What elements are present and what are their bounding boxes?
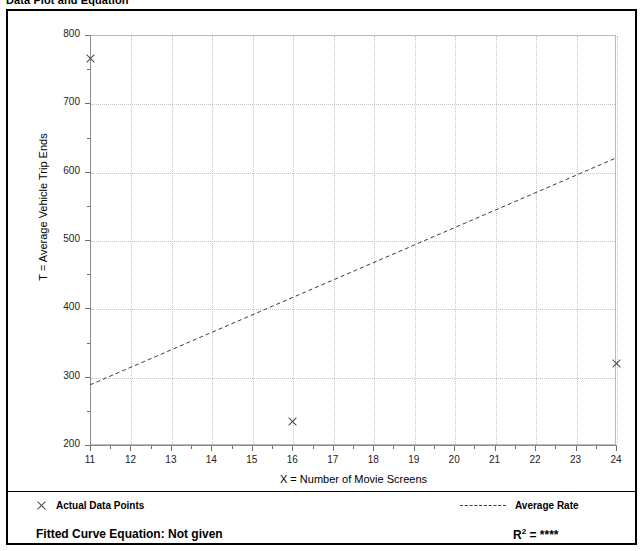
x-axis-tick-label: 20 (434, 454, 474, 465)
x-axis-tick (576, 446, 577, 451)
x-axis-tick-label: 18 (353, 454, 393, 465)
page-title: Data Plot and Equation (6, 0, 129, 6)
x-axis-tick (333, 446, 334, 451)
x-axis-tick-minor (515, 446, 516, 449)
y-axis-tick (85, 172, 90, 173)
fitted-curve-equation: Fitted Curve Equation: Not given (36, 527, 223, 541)
y-axis-tick-minor (87, 274, 90, 275)
y-axis-tick-label: 600 (28, 165, 80, 176)
x-axis-tick-minor (353, 446, 354, 449)
x-axis-tick-label: 21 (475, 454, 515, 465)
x-axis-tick (495, 446, 496, 451)
equation-row: Fitted Curve Equation: Not given R2 = **… (8, 525, 635, 547)
r-squared-exponent: 2 (522, 527, 526, 536)
y-axis-tick (85, 377, 90, 378)
y-axis-tick (85, 35, 90, 36)
x-axis-tick (90, 446, 91, 451)
dashed-line-icon (460, 505, 506, 506)
x-axis-tick-minor (151, 446, 152, 449)
x-axis-tick-minor (191, 446, 192, 449)
x-axis-tick-label: 16 (272, 454, 312, 465)
legend-item-actual-data-points: Actual Data Points (36, 500, 144, 511)
page-header: Data Plot and Equation (0, 0, 643, 8)
x-axis-tick-minor (393, 446, 394, 449)
chart-legend: Actual Data Points Average Rate (8, 496, 635, 522)
x-axis-tick (252, 446, 253, 451)
x-axis-tick-label: 23 (556, 454, 596, 465)
footer-divider (8, 491, 635, 492)
x-axis-tick-minor (272, 446, 273, 449)
x-axis-tick (535, 446, 536, 451)
r-squared-value: **** (540, 528, 559, 542)
x-axis-tick (414, 446, 415, 451)
x-axis-tick (373, 446, 374, 451)
fitted-curve-equation-value: Not given (168, 527, 223, 541)
legend-label-actual-data-points: Actual Data Points (56, 500, 144, 511)
y-axis-tick-label: 800 (28, 28, 80, 39)
x-axis-tick (130, 446, 131, 451)
y-axis-tick-label: 400 (28, 301, 80, 312)
x-axis-tick (454, 446, 455, 451)
x-axis-tick-label: 13 (151, 454, 191, 465)
r-squared-symbol: R (513, 528, 522, 542)
x-axis-tick-minor (232, 446, 233, 449)
x-axis-tick-minor (555, 446, 556, 449)
r-squared-block: R2 = **** (513, 527, 559, 542)
x-axis-tick-label: 17 (313, 454, 353, 465)
y-axis-title: T = Average Vehicle Trip Ends (37, 77, 49, 337)
x-axis-tick-minor (596, 446, 597, 449)
x-axis-tick-label: 22 (515, 454, 555, 465)
x-axis-tick-minor (474, 446, 475, 449)
y-axis-tick-minor (87, 411, 90, 412)
r-squared-equals: = (529, 528, 536, 542)
x-axis-tick-label: 24 (596, 454, 636, 465)
y-axis-tick (85, 103, 90, 104)
x-axis-tick-label: 14 (191, 454, 231, 465)
y-axis-tick-label: 300 (28, 370, 80, 381)
chart-card: X = Number of Movie Screens T = Average … (6, 9, 637, 545)
average-rate-trend-line (90, 158, 616, 385)
x-axis-tick-minor (313, 446, 314, 449)
y-axis-tick-minor (87, 69, 90, 70)
x-axis-tick-label: 15 (232, 454, 272, 465)
fitted-curve-equation-label: Fitted Curve Equation: (36, 527, 165, 541)
x-axis-tick-minor (434, 446, 435, 449)
x-axis-tick (292, 446, 293, 451)
trend-line-layer (8, 11, 635, 491)
x-axis-tick-label: 19 (394, 454, 434, 465)
chart-region: X = Number of Movie Screens T = Average … (8, 11, 635, 491)
legend-item-average-rate: Average Rate (460, 500, 579, 511)
y-axis-tick-minor (87, 206, 90, 207)
x-axis-tick (616, 446, 617, 451)
x-axis-title: X = Number of Movie Screens (90, 473, 617, 485)
y-axis-tick-minor (87, 138, 90, 139)
x-axis-tick (211, 446, 212, 451)
x-axis-tick-minor (110, 446, 111, 449)
y-axis-tick-label: 500 (28, 233, 80, 244)
y-axis-tick-label: 200 (28, 438, 80, 449)
legend-label-average-rate: Average Rate (515, 500, 579, 511)
y-axis-tick (85, 308, 90, 309)
y-axis-tick (85, 240, 90, 241)
x-axis-tick-label: 11 (70, 454, 110, 465)
y-axis-tick-minor (87, 343, 90, 344)
x-axis-tick-label: 12 (110, 454, 150, 465)
x-marker-icon (36, 500, 47, 511)
x-axis-tick (171, 446, 172, 451)
y-axis-tick (85, 445, 90, 446)
y-axis-tick-label: 700 (28, 96, 80, 107)
